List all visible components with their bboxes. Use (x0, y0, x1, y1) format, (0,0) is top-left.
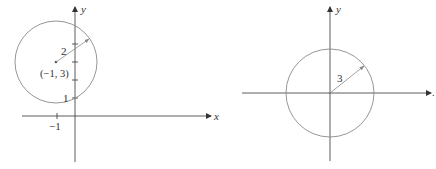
left-center-label: (−1, 3) (40, 68, 69, 80)
right-y-axis-label: y (335, 3, 341, 15)
left-diagram: y x 2 (−1, 3) 1 −1 (15, 3, 219, 162)
left-x-tick-label: −1 (49, 120, 61, 132)
right-radius-arrow (330, 66, 364, 93)
left-radius-label: 2 (61, 45, 67, 57)
left-y-tick-label: 1 (63, 92, 69, 104)
left-x-axis-label: x (213, 110, 219, 122)
left-y-axis-label: y (80, 3, 86, 15)
right-radius-label: 3 (337, 72, 343, 84)
diagram-canvas: y x 2 (−1, 3) 1 −1 y . 3 (0, 0, 436, 169)
right-x-axis-label: . (432, 87, 435, 98)
right-diagram: y . 3 (242, 3, 435, 161)
